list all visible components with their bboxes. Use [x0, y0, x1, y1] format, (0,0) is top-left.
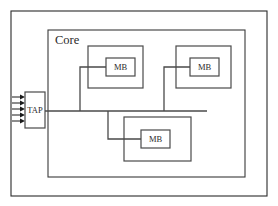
wrapper-group: MBMBMB	[88, 46, 231, 161]
tap-input-arrowhead-2	[20, 100, 25, 105]
tap-input-arrowhead-4	[20, 112, 25, 117]
wrapper-branches	[80, 67, 190, 139]
tap-label: TAP	[27, 105, 43, 115]
mb-label-1: MB	[114, 62, 128, 72]
tap-input-arrowhead-3	[20, 106, 25, 111]
tap-input-arrowhead-5	[20, 118, 25, 123]
core-architecture-diagram: Core TAP MBMBMB	[0, 0, 278, 206]
mb-label-2: MB	[198, 62, 212, 72]
mb-label-3: MB	[149, 134, 163, 144]
outer-frame	[11, 11, 267, 196]
branch-wrapper-top-left	[80, 67, 106, 111]
branch-wrapper-top-right	[164, 67, 190, 111]
core-label: Core	[55, 33, 80, 47]
tap-input-arrows	[12, 94, 25, 123]
diagram-canvas: Core TAP MBMBMB	[0, 0, 278, 206]
core-boundary	[48, 30, 245, 177]
tap-input-arrowhead-1	[20, 94, 25, 99]
